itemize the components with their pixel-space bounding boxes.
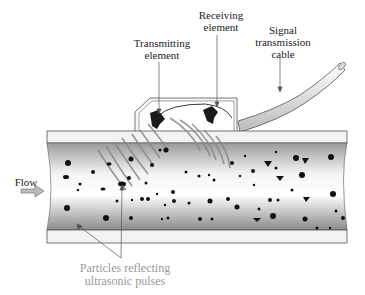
label-line: Receiving bbox=[186, 9, 256, 21]
pipe-bottom-wall bbox=[47, 230, 347, 243]
flow-label: Flow bbox=[10, 176, 42, 188]
label-line: cable bbox=[243, 48, 323, 60]
label-line: Transmitting bbox=[122, 37, 202, 49]
label-line: Signal bbox=[243, 24, 323, 36]
pipe-top-wall bbox=[47, 131, 347, 143]
signal-cable bbox=[238, 61, 347, 132]
label-line: transmission bbox=[243, 36, 323, 48]
label-line: ultrasonic pulses bbox=[70, 275, 180, 288]
sensor-housing bbox=[135, 98, 237, 134]
particles-label: Particles reflecting ultrasonic pulses bbox=[70, 262, 180, 288]
signal-cable-label: Signal transmission cable bbox=[243, 24, 323, 60]
label-line: element bbox=[122, 49, 202, 61]
transmitting-element-label: Transmitting element bbox=[122, 37, 202, 61]
pipe-fluid bbox=[47, 143, 347, 230]
